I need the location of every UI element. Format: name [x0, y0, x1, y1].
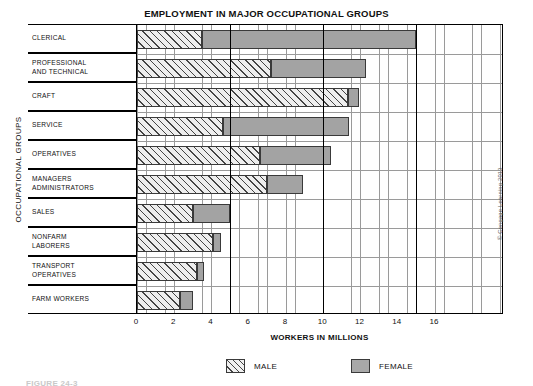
chart-legend: MALE FEMALE	[136, 355, 503, 377]
x-tick-label: 14	[392, 317, 401, 326]
bar-row	[137, 233, 502, 252]
row-gridline	[137, 83, 502, 84]
row-gridline	[137, 112, 502, 113]
legend-label-male: MALE	[254, 362, 277, 371]
bar-male	[137, 262, 197, 281]
category-label-cell: PROFESSIONAL AND TECHNICAL	[28, 53, 136, 82]
category-label-cell: FARM WORKERS	[28, 285, 136, 314]
bar-female	[260, 146, 331, 165]
bar-row	[137, 30, 502, 49]
bar-male	[137, 30, 202, 49]
bar-female	[202, 30, 416, 49]
bar-female	[223, 117, 350, 136]
bar-row	[137, 88, 502, 107]
category-label-cell: OPERATIVES	[28, 140, 136, 169]
bar-male	[137, 59, 271, 78]
category-label-cell: CRAFT	[28, 82, 136, 111]
category-label-cell: NONFARM LABORERS	[28, 227, 136, 256]
bar-row	[137, 262, 502, 281]
x-tick-label: 4	[208, 317, 213, 326]
copyright-notice: © Cengage Learning 2013	[497, 120, 503, 240]
category-label-cell: CLERICAL	[28, 24, 136, 53]
bar-male	[137, 117, 223, 136]
category-label-cell: SALES	[28, 198, 136, 227]
chart-title: EMPLOYMENT IN MAJOR OCCUPATIONAL GROUPS	[0, 8, 533, 19]
bar-row	[137, 291, 502, 310]
category-label: SALES	[28, 208, 55, 216]
x-tick-label: 2	[171, 317, 176, 326]
legend-swatch-female-icon	[351, 359, 370, 373]
bar-female	[348, 88, 359, 107]
x-tick-label: 6	[245, 317, 250, 326]
category-label-column: CLERICALPROFESSIONAL AND TECHNICALCRAFTS…	[28, 24, 136, 314]
category-label-cell: SERVICE	[28, 111, 136, 140]
legend-item-female: FEMALE	[351, 359, 413, 373]
bar-row	[137, 204, 502, 223]
x-tick-label: 12	[355, 317, 364, 326]
figure-caption: FIGURE 24-3	[26, 379, 78, 386]
bar-row	[137, 117, 502, 136]
bar-male	[137, 146, 260, 165]
row-gridline	[137, 141, 502, 142]
bar-male	[137, 204, 193, 223]
bar-female	[267, 175, 302, 194]
bar-male	[137, 175, 267, 194]
category-label: MANAGERS ADMINISTRATORS	[28, 175, 94, 191]
bar-row	[137, 59, 502, 78]
category-label: NONFARM LABORERS	[28, 233, 70, 249]
category-label: TRANSPORT OPERATIVES	[28, 262, 76, 278]
x-tick-label: 8	[283, 317, 288, 326]
legend-label-female: FEMALE	[379, 362, 413, 371]
bar-row	[137, 175, 502, 194]
category-label: CRAFT	[28, 92, 55, 100]
bar-male	[137, 233, 213, 252]
x-tick-label: 16	[429, 317, 438, 326]
category-label: SERVICE	[28, 121, 63, 129]
row-gridline	[137, 257, 502, 258]
legend-swatch-male-icon	[226, 359, 245, 373]
bar-female	[213, 233, 220, 252]
x-tick-label: 10	[318, 317, 327, 326]
row-gridline	[137, 199, 502, 200]
row-gridline	[137, 286, 502, 287]
legend-item-male: MALE	[226, 359, 277, 373]
bar-row	[137, 146, 502, 165]
x-axis-title: WORKERS IN MILLIONS	[136, 333, 503, 342]
bar-male	[137, 291, 180, 310]
bar-female	[193, 204, 230, 223]
y-axis-title: OCCUPATIONAL GROUPS	[14, 75, 23, 265]
category-label: FARM WORKERS	[28, 295, 89, 303]
row-gridline	[137, 54, 502, 55]
x-tick-label: 0	[134, 317, 139, 326]
category-label: PROFESSIONAL AND TECHNICAL	[28, 59, 88, 75]
bar-male	[137, 88, 348, 107]
plot-area	[136, 24, 503, 314]
row-gridline	[137, 170, 502, 171]
category-label-cell: TRANSPORT OPERATIVES	[28, 256, 136, 285]
bar-female	[271, 59, 366, 78]
category-label: OPERATIVES	[28, 150, 76, 158]
bar-female	[180, 291, 193, 310]
x-axis-ticks: 0246810121416	[136, 314, 503, 334]
row-gridline	[137, 228, 502, 229]
bar-female	[197, 262, 204, 281]
category-label-cell: MANAGERS ADMINISTRATORS	[28, 169, 136, 198]
category-label: CLERICAL	[28, 34, 66, 42]
